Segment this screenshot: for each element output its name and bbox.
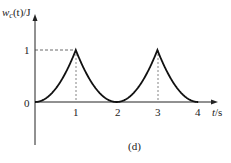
x-tick-2: 2 [115,106,121,118]
figure-caption: (d) [128,140,141,153]
x-tick-4: 4 [195,106,201,118]
x-tick-1: 1 [73,106,79,118]
origin-label: 0 [24,97,30,109]
y-tick-1: 1 [24,44,30,56]
chart: wc(t)/J 1 0 1 2 3 4 t/s (d) [0,0,231,163]
x-axis-label: t/s [212,106,222,118]
x-tick-3: 3 [155,106,161,118]
x-axis-arrow-icon [211,100,218,105]
y-axis-arrow-icon [33,14,38,21]
data-series-curve [35,50,198,102]
y-axis-label: wc(t)/J [2,6,31,20]
